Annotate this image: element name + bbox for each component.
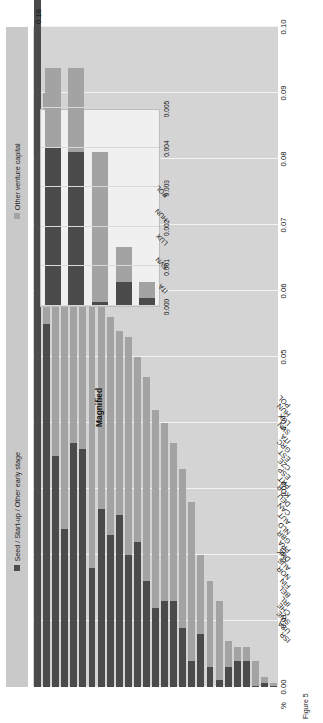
bar-value-label: 0.18 xyxy=(33,9,42,24)
magnified-inset xyxy=(40,109,160,307)
bar-segment xyxy=(79,449,86,687)
inset-bar-segment xyxy=(68,152,84,306)
bar-row xyxy=(224,27,233,687)
bar-segment xyxy=(98,509,105,687)
bar-segment xyxy=(197,555,204,634)
inset-value-tick-label: 0.000 xyxy=(163,299,170,316)
bar-segment xyxy=(243,647,250,661)
stacked-bar xyxy=(216,601,223,687)
bar-segment xyxy=(107,535,114,687)
inset-bar-rows xyxy=(41,110,159,306)
inset-gridline xyxy=(41,305,159,306)
stacked-bar xyxy=(225,641,232,687)
value-tick-label: 0.09 xyxy=(279,86,288,101)
inset-gridline xyxy=(41,107,159,108)
bar-segment xyxy=(270,683,277,686)
stacked-bar xyxy=(252,661,259,687)
bar-segment xyxy=(116,515,123,687)
bar-segment xyxy=(52,456,59,687)
inset-gridline xyxy=(41,265,159,266)
stacked-bar xyxy=(89,284,96,687)
rotated-figure-frame: Seed / Start-up / Other early stage Othe… xyxy=(0,0,323,723)
bar-row xyxy=(196,27,205,687)
inset-stacked-bar xyxy=(45,68,61,306)
value-tick-label: 0.10 xyxy=(279,20,288,35)
inset-bar-segment xyxy=(116,282,132,306)
bar-segment xyxy=(134,357,141,542)
stacked-bar xyxy=(70,251,77,687)
bar-segment xyxy=(261,683,268,687)
bar-segment xyxy=(161,601,168,687)
bar-row xyxy=(233,27,242,687)
bar-row xyxy=(205,27,214,687)
bar-segment xyxy=(216,680,223,687)
inset-bar-row xyxy=(112,110,136,306)
bar-row xyxy=(260,27,269,687)
stacked-bar xyxy=(143,377,150,687)
bar-row xyxy=(187,27,196,687)
stacked-bar xyxy=(34,0,41,687)
stacked-bar xyxy=(107,317,114,687)
bar-segment xyxy=(252,661,259,686)
bar-segment xyxy=(134,542,141,687)
value-tick-label: 0.06 xyxy=(279,284,288,299)
stacked-bar xyxy=(161,423,168,687)
stacked-bar xyxy=(61,245,68,687)
bar-segment xyxy=(188,502,195,660)
bar-segment xyxy=(243,661,250,687)
inset-bar-row xyxy=(65,110,89,306)
bar-segment xyxy=(170,443,177,601)
bar-segment xyxy=(179,628,186,687)
inset-bar-segment xyxy=(68,68,84,151)
category-axis: ISRUSASWECHEIRLBELFINNORAUSDNKFRAGBRNLDA… xyxy=(0,27,34,687)
bar-segment xyxy=(188,661,195,687)
inset-bar-segment xyxy=(45,68,61,147)
inset-bar-segment xyxy=(139,282,155,298)
bar-segment xyxy=(270,686,277,687)
bar-segment xyxy=(125,555,132,687)
bar-segment xyxy=(152,608,159,687)
inset-value-tick-label: 0.005 xyxy=(163,101,170,118)
bar-segment xyxy=(225,641,232,667)
bar-segment xyxy=(234,661,241,687)
stacked-bar xyxy=(79,265,86,687)
stacked-bar xyxy=(261,677,268,687)
bar-segment xyxy=(34,0,41,687)
inset-title: Magnified xyxy=(94,388,104,427)
inset-gridline xyxy=(41,226,159,227)
bar-row xyxy=(215,27,224,687)
bar-segment xyxy=(170,601,177,687)
bar-segment xyxy=(125,337,132,555)
inset-gridline xyxy=(41,186,159,187)
inset-value-axis: 0.0000.0010.0020.0030.0040.005 xyxy=(163,109,181,307)
bar-segment xyxy=(161,423,168,601)
stacked-bar xyxy=(98,298,105,687)
bar-segment xyxy=(89,568,96,687)
bar-segment xyxy=(216,601,223,680)
value-tick-label: 0.07 xyxy=(279,218,288,233)
bar-segment xyxy=(252,686,259,687)
bar-segment xyxy=(179,469,186,627)
inset-bar-row xyxy=(135,110,159,306)
inset-bar-row xyxy=(41,110,65,306)
figure-caption: Figure 5 xyxy=(302,693,309,719)
stacked-bar xyxy=(152,410,159,687)
stacked-bar xyxy=(188,502,195,687)
bar-segment xyxy=(70,443,77,687)
bar-row xyxy=(242,27,251,687)
inset-bar-row xyxy=(88,110,112,306)
value-axis-title: % xyxy=(279,702,288,709)
bar-row xyxy=(269,27,278,687)
bar-segment xyxy=(207,581,214,667)
inset-stacked-bar xyxy=(68,68,84,306)
stacked-bar xyxy=(270,683,277,687)
inset-stacked-bar xyxy=(116,247,132,306)
stacked-bar xyxy=(134,357,141,687)
bar-segment xyxy=(116,331,123,516)
bar-segment xyxy=(143,377,150,582)
stacked-bar xyxy=(207,581,214,687)
bar-segment xyxy=(225,667,232,687)
bar-segment xyxy=(43,324,50,687)
bar-segment xyxy=(61,529,68,687)
bar-segment xyxy=(207,667,214,687)
